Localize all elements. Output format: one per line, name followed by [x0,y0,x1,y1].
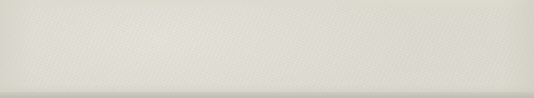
figures-group [32,3,502,95]
vertex-dot-square-0 [175,24,177,26]
center-point-pentagon [331,47,335,51]
vertex-dot-pentagon-0 [332,14,334,16]
vertex-dot-pentagon-1 [364,37,366,39]
figure-square [154,3,246,95]
vertex-dot-hexagon-4 [446,77,448,79]
vertex-dot-hexagon-0 [446,18,448,20]
vertex-dot-hexagon-1 [480,18,482,20]
vertex-dot-triangle-1 [98,65,100,67]
vertex-dot-square-3 [175,72,177,74]
center-point-square [198,47,202,51]
figures-canvas [0,0,534,98]
vertex-dot-triangle-0 [69,14,71,16]
figure-triangle [32,5,108,93]
vertex-dot-triangle-2 [39,65,41,67]
figure-hexagon [426,5,502,93]
figure-strip [0,0,534,98]
vertex-dot-hexagon-5 [429,48,431,50]
vertex-dot-square-2 [223,72,225,74]
center-point-hexagon [462,47,466,51]
figure-pentagon [291,5,375,93]
vertex-dot-hexagon-3 [480,77,482,79]
vertex-dot-hexagon-2 [497,48,499,50]
vertex-dot-pentagon-4 [300,37,302,39]
vertex-dot-pentagon-3 [312,75,314,77]
vertex-dot-square-1 [223,24,225,26]
center-point-triangle [68,47,72,51]
vertex-dot-pentagon-2 [352,75,354,77]
